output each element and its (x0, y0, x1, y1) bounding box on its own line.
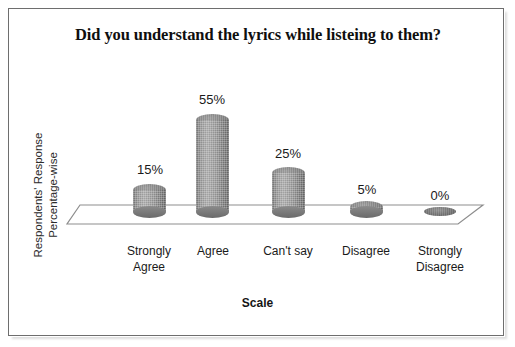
data-label-strongly-disagree: 0% (406, 188, 474, 203)
bar-bottom-ellipse (196, 206, 229, 218)
x-tick-line1: Agree (170, 243, 256, 259)
bar-agree (196, 114, 229, 218)
bar-body (196, 120, 229, 212)
y-axis-title: Respondents' Response Percentage-wise (31, 133, 61, 258)
x-tick-line2: Agree (106, 259, 192, 275)
chart-figure: Did you understand the lyrics while list… (0, 0, 515, 347)
bar-strongly-disagree (424, 207, 456, 216)
x-tick-label-agree: Agree (170, 243, 256, 259)
x-tick-line1: Can't say (245, 243, 331, 259)
bar-bottom-ellipse (350, 206, 383, 218)
bar-strongly-agree (133, 184, 166, 218)
x-tick-line2: Disagree (397, 259, 483, 275)
y-axis-title-line2: Percentage-wise (46, 133, 61, 258)
axis-floor-plane (0, 0, 515, 347)
x-tick-label-strongly-disagree: Strongly Disagree (397, 243, 483, 275)
bar-bottom-ellipse (272, 206, 305, 218)
bar-top-ellipse (424, 207, 456, 216)
y-axis-title-wrap: Respondents' Response Percentage-wise (26, 100, 66, 290)
data-label-strongly-agree: 15% (116, 162, 184, 177)
x-tick-line1: Strongly (397, 243, 483, 259)
x-axis-title: Scale (0, 296, 515, 310)
bar-disagree (350, 201, 383, 218)
data-label-cant-say: 25% (254, 146, 322, 161)
y-axis-title-line1: Respondents' Response (31, 133, 46, 258)
x-tick-label-cant-say: Can't say (245, 243, 331, 259)
bar-cant-say (272, 167, 305, 218)
bar-bottom-ellipse (133, 206, 166, 218)
plot-area: 15% 55% 25% 5% 0% Strongly Agree Agree C… (0, 0, 515, 347)
data-label-disagree: 5% (333, 182, 401, 197)
data-label-agree: 55% (178, 92, 246, 107)
